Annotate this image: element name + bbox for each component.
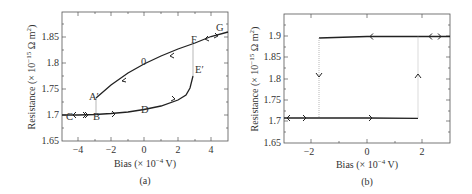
label-b: B bbox=[93, 111, 100, 122]
upper-branch-curve bbox=[96, 32, 228, 98]
lower-branch-curve bbox=[62, 76, 193, 115]
ytick: 1.8 bbox=[47, 57, 60, 68]
xticks-b: −2 0 2 bbox=[304, 146, 425, 157]
ytick: 1.65 bbox=[42, 135, 60, 146]
xlabel-a: Bias (× 10−4 V) bbox=[114, 157, 176, 170]
label-d: D bbox=[141, 104, 149, 115]
ytick: 1.7 bbox=[269, 115, 282, 126]
yticks-a: 1.85 1.8 1.75 1.7 1.65 bbox=[42, 31, 60, 146]
ticks-b bbox=[284, 14, 450, 143]
caption-b: (b) bbox=[361, 176, 373, 188]
xtick: 2 bbox=[420, 146, 425, 157]
ytick: 1.75 bbox=[42, 83, 60, 94]
xtick: 0 bbox=[142, 144, 147, 155]
xtick: 2 bbox=[176, 144, 181, 155]
yticks-b: 1.9 1.85 1.8 1.75 1.7 1.65 bbox=[264, 30, 282, 148]
ytick: 1.7 bbox=[47, 109, 60, 120]
label-c: C bbox=[66, 111, 73, 122]
ytick: 1.8 bbox=[269, 73, 282, 84]
plot-frame-b bbox=[284, 14, 450, 143]
ytick: 1.85 bbox=[264, 51, 282, 62]
xticks-a: −4 −2 0 2 4 bbox=[73, 144, 214, 155]
label-a-prime: A′ bbox=[89, 91, 99, 102]
ticks-a bbox=[62, 12, 228, 141]
point-labels-a: A′ B C D E′ F G 0 bbox=[66, 22, 224, 122]
ytick: 1.65 bbox=[264, 137, 282, 148]
xtick: 4 bbox=[209, 144, 214, 155]
panel-a: 1.85 1.8 1.75 1.7 1.65 −4 −2 0 2 4 Bias … bbox=[25, 12, 228, 187]
label-e-prime: E′ bbox=[195, 64, 204, 75]
figure: 1.85 1.8 1.75 1.7 1.65 −4 −2 0 2 4 Bias … bbox=[0, 0, 472, 194]
xtick: −2 bbox=[304, 146, 315, 157]
label-g: G bbox=[216, 22, 224, 33]
ylabel-a: Resistance (× 10−15 Ω m2) bbox=[25, 25, 38, 130]
plot-frame-a bbox=[62, 12, 228, 141]
ytick: 1.85 bbox=[42, 31, 60, 42]
label-zero: 0 bbox=[141, 56, 146, 67]
xlabel-b: Bias (× 10−4 V) bbox=[336, 158, 398, 171]
label-f: F bbox=[191, 34, 197, 45]
xtick: −4 bbox=[73, 144, 84, 155]
ylabel-b: Resistance (× 10−15 Ω m2) bbox=[248, 27, 261, 132]
caption-a: (a) bbox=[139, 175, 150, 187]
panel-b: 1.9 1.85 1.8 1.75 1.7 1.65 −2 0 2 Bias (… bbox=[248, 14, 450, 188]
xtick: 0 bbox=[365, 146, 370, 157]
ytick: 1.75 bbox=[264, 94, 282, 105]
xtick: −2 bbox=[106, 144, 117, 155]
ytick: 1.9 bbox=[269, 30, 282, 41]
